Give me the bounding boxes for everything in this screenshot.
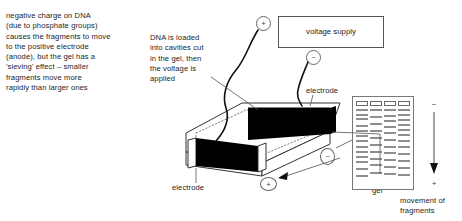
gel-lanes: [356, 101, 410, 185]
gel-well: [356, 101, 368, 106]
electrode-label-bottom: electrode: [172, 183, 204, 193]
gel-well: [384, 101, 396, 106]
tank-positive-polarity-icon: +: [260, 177, 277, 191]
gel-lane: [356, 101, 368, 185]
gel-band: [370, 172, 382, 174]
gel-lane: [370, 101, 382, 185]
voltage-supply-label: voltage supply: [279, 27, 383, 36]
movement-of-fragments-label: movement of fragments: [400, 196, 462, 215]
gel-lane: [398, 101, 410, 185]
negative-terminal-icon: −: [306, 50, 321, 65]
voltage-supply-box: voltage supply: [278, 16, 384, 48]
gel-lane: [384, 101, 396, 185]
tank-negative-polarity-icon: −: [320, 148, 335, 165]
gel-well: [370, 101, 382, 106]
gel-band: [356, 175, 368, 177]
explanation-note-charge: negative charge on DNA (due to phosphate…: [6, 11, 138, 93]
electrode-label-top: electrode: [306, 86, 338, 96]
gel-band: [398, 174, 410, 176]
migration-direction-arrow: − +: [424, 100, 444, 188]
gel-band: [384, 173, 396, 175]
explanation-note-loading: DNA is loaded into cavities cut in the g…: [150, 33, 222, 84]
gel-well: [398, 101, 410, 106]
gel-electrophoresis-figure: negative charge on DNA (due to phosphate…: [0, 0, 462, 221]
positive-terminal-icon: +: [256, 16, 271, 31]
gel-result-panel: [352, 96, 414, 190]
